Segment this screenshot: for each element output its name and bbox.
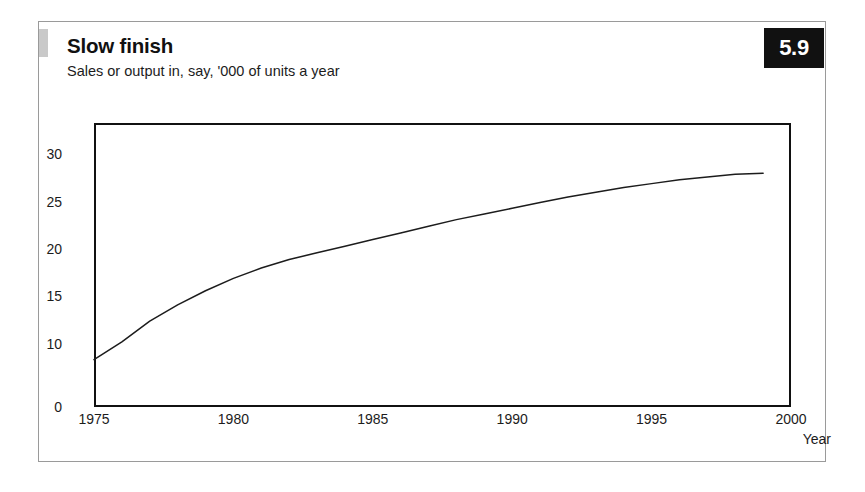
y-tick-label: 15 [22,288,62,304]
chart-subtitle: Sales or output in, say, '000 of units a… [67,63,340,79]
x-tick-label: 1990 [497,411,528,427]
y-tick-label: 10 [22,336,62,352]
chart-title: Slow finish [67,34,173,58]
left-edge-marker [39,29,48,57]
x-tick-label: 1975 [78,411,109,427]
x-tick-label: 2000 [775,411,806,427]
figure-card: Slow finish Sales or output in, say, '00… [38,21,826,462]
y-tick-label: 25 [22,194,62,210]
y-tick-label: 0 [22,399,62,415]
x-tick-label: 1980 [218,411,249,427]
y-tick-label: 30 [22,146,62,162]
line-series-curve [94,123,791,407]
x-tick-label: 1985 [357,411,388,427]
series-path [94,173,763,359]
y-tick-label: 20 [22,241,62,257]
figure-number-badge: 5.9 [764,28,824,68]
x-axis-title: Year [803,431,831,447]
x-tick-label: 1995 [636,411,667,427]
